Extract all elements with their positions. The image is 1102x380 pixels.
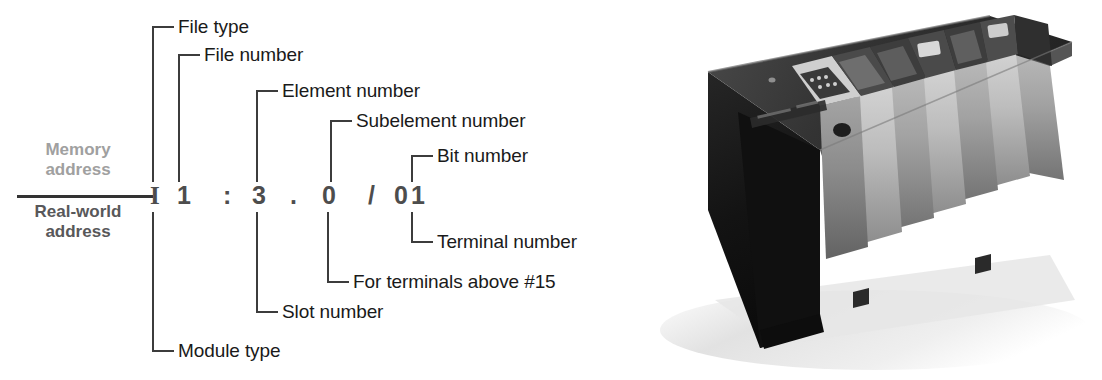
for-terminals-above-15-leader-stem <box>327 212 329 283</box>
callouts-below-group: Terminal number For terminals above #15 … <box>0 0 620 380</box>
address-breakdown-diagram: Memory address Real-world address I 1 : … <box>0 0 620 380</box>
status-led <box>769 78 776 83</box>
callout-label-slot-number: Slot number <box>282 301 383 322</box>
for-terminals-above-15-leader-arm <box>327 281 349 283</box>
module-type-leader-stem <box>152 212 154 352</box>
plc-chassis-photo <box>620 0 1102 380</box>
callout-label-for-terminals-above-15: For terminals above #15 <box>353 271 556 292</box>
terminal-number-leader-arm <box>411 241 433 243</box>
processor-keyswitch <box>833 123 851 137</box>
module-2-processor <box>820 96 868 259</box>
module-type-leader-arm <box>152 350 174 352</box>
callout-label-module-type: Module type <box>178 340 280 361</box>
figure-root: Memory address Real-world address I 1 : … <box>0 0 1102 380</box>
slot-number-leader-arm <box>256 311 278 313</box>
faceplate-7-window <box>987 23 1009 39</box>
terminal-number-leader-stem <box>411 212 413 243</box>
slot-number-leader-stem <box>256 212 258 313</box>
callout-label-terminal-number: Terminal number <box>437 231 577 252</box>
